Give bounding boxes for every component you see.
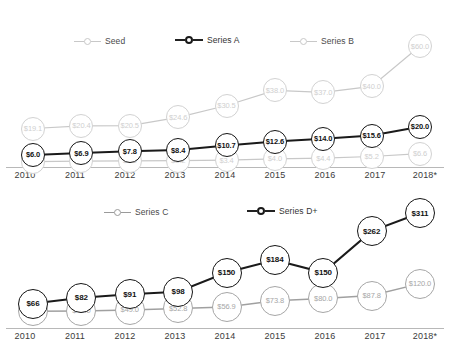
data-point: $262	[357, 216, 387, 246]
data-point: $6.0	[21, 143, 45, 167]
x-tick-2018: 2018*	[400, 331, 450, 341]
data-point: $6.6	[408, 142, 432, 166]
data-point: $150	[212, 258, 242, 288]
x-tick-2010: 2010	[0, 331, 50, 341]
data-point: $82	[66, 283, 96, 313]
x-tick-2016: 2016	[300, 331, 350, 341]
x-tick-2018: 2018*	[400, 170, 450, 180]
x-tick-2016: 2016	[300, 170, 350, 180]
bottom-chart-panel: Series C Series D+ $45.0$46.0$49.0$52.8$…	[0, 190, 450, 361]
data-point: $150	[308, 258, 338, 288]
data-point: $311	[405, 198, 435, 228]
data-point: $184	[260, 245, 290, 275]
data-point: $7.8	[118, 139, 142, 163]
data-point: $60.0	[408, 34, 432, 58]
data-point: $56.9	[212, 292, 242, 322]
data-point: $14.0	[311, 127, 335, 151]
data-point: $19.1	[21, 117, 45, 141]
x-tick-2012: 2012	[100, 331, 150, 341]
data-point: $12.6	[263, 130, 287, 154]
x-tick-2017: 2017	[350, 170, 400, 180]
data-point: $98	[163, 277, 193, 307]
x-tick-2015: 2015	[250, 170, 300, 180]
x-tick-2017: 2017	[350, 331, 400, 341]
top-chart-panel: Seed Series A Series B $2.7$2.9$3.0$3.2$…	[0, 0, 450, 190]
top-chart-plot-area: $2.7$2.9$3.0$3.2$3.4$4.0$4.4$5.2$6.6$6.0…	[0, 0, 450, 190]
data-point: $91	[115, 279, 145, 309]
data-point: $120.0	[405, 269, 435, 299]
data-point: $20.5	[118, 114, 142, 138]
data-point: $66	[18, 289, 48, 319]
x-tick-2014: 2014	[200, 331, 250, 341]
data-point: $20.0	[408, 115, 432, 139]
data-point: $5.2	[360, 145, 384, 169]
data-point: $87.8	[357, 281, 387, 311]
data-point: $15.6	[360, 124, 384, 148]
data-point: $30.5	[215, 94, 239, 118]
x-tick-2013: 2013	[150, 331, 200, 341]
data-point: $40.0	[360, 74, 384, 98]
x-axis-line-bottom	[6, 328, 444, 329]
x-tick-2011: 2011	[50, 331, 100, 341]
data-point: $8.4	[166, 138, 190, 162]
data-point: $73.8	[260, 286, 290, 316]
x-axis-ticks-bottom: 201020112012201320142015201620172018*	[0, 331, 450, 341]
data-point: $10.7	[215, 133, 239, 157]
x-tick-2015: 2015	[250, 331, 300, 341]
